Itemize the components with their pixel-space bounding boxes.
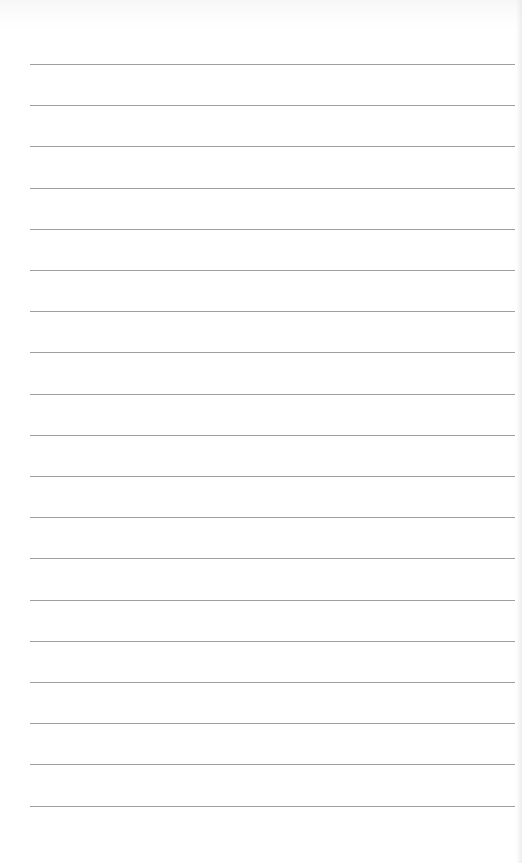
ruled-line [30,311,515,312]
ruled-line [30,188,515,189]
ruled-line [30,764,515,765]
ruled-line [30,64,515,65]
ruled-line [30,352,515,353]
ruled-line [30,723,515,724]
ruled-line [30,600,515,601]
ruled-line [30,476,515,477]
ruled-line [30,146,515,147]
ruled-line [30,105,515,106]
ruled-line [30,435,515,436]
ruled-line [30,806,515,807]
ruled-line [30,517,515,518]
ruled-line [30,270,515,271]
lined-paper-page [0,0,522,863]
ruled-line [30,558,515,559]
ruled-line [30,641,515,642]
ruled-line [30,394,515,395]
ruled-line [30,682,515,683]
ruled-line [30,229,515,230]
